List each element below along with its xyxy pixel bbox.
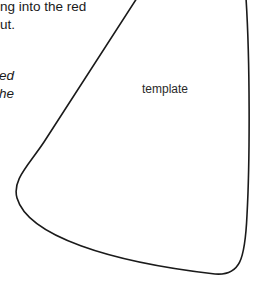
template-label: template — [142, 82, 188, 96]
template-shape-outline — [0, 0, 257, 283]
